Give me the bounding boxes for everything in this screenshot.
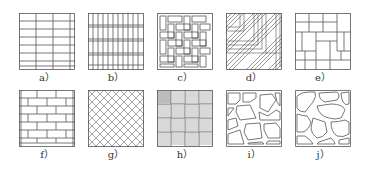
panel-label-i: i） — [226, 149, 282, 161]
panel-label-j: j） — [295, 149, 351, 161]
pattern-g-diagonal-lattice — [88, 90, 144, 147]
panel-label-d: d） — [226, 72, 282, 84]
pattern-c-basketweave — [157, 13, 213, 70]
pattern-a-stacked-bond — [19, 13, 75, 70]
pattern-b-vertical-strips — [88, 13, 144, 70]
panel-label-g: g） — [88, 149, 144, 161]
panel-label-h: h） — [157, 149, 213, 161]
pattern-i-flagstone — [226, 90, 282, 147]
pattern-h-parquet-basketweave — [157, 90, 213, 147]
pattern-f-running-bond — [19, 90, 75, 147]
panel-label-e: e） — [295, 72, 351, 84]
pattern-j-cobblestone — [295, 90, 351, 147]
panel-label-b: b） — [88, 72, 144, 84]
panel-label-c: c） — [157, 72, 213, 84]
panel-label-f: f） — [19, 149, 75, 161]
panel-label-a: a） — [19, 72, 75, 84]
pattern-e-pinwheel — [295, 13, 351, 70]
pattern-d-herringbone — [226, 13, 282, 70]
